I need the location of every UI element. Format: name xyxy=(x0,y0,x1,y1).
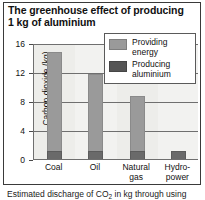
chart-title: The greenhouse effect of producing 1 kg … xyxy=(8,5,188,28)
x-axis-tick-label-line: Oil xyxy=(90,162,100,172)
bar-coal xyxy=(47,52,62,159)
bar-segment-producing-aluminium xyxy=(130,151,145,159)
x-axis-tick-label: Hydro-power xyxy=(154,163,200,182)
y-axis-tick-mark xyxy=(29,102,33,103)
x-axis-tick-label-line: Natural xyxy=(122,162,149,172)
y-axis-tick-mark xyxy=(29,73,33,74)
x-axis-tick-label: Oil xyxy=(72,163,118,173)
x-axis-tick-label-line: Hydro- xyxy=(165,162,191,172)
y-axis-tick-mark xyxy=(29,131,33,132)
legend-label-providing-energy: Providing energy xyxy=(132,38,191,57)
bar-segment-providing-energy xyxy=(47,52,62,151)
x-axis-tick-label-line: gas xyxy=(129,172,143,182)
legend-item-providing-energy: Providing energy xyxy=(109,38,191,57)
y-axis-tick-label: 0 xyxy=(9,156,25,165)
y-axis-tick-label: 4 xyxy=(9,127,25,136)
producing-aluminium-swatch-icon xyxy=(109,61,127,72)
legend-label-producing-aluminium: Producing aluminium xyxy=(132,60,191,79)
y-axis-tick-label: 8 xyxy=(9,98,25,107)
x-axis-tick-label-line: power xyxy=(166,172,189,182)
bar-hydro-power xyxy=(171,151,186,159)
x-axis-tick-label: Coal xyxy=(31,163,77,173)
bar-segment-providing-energy xyxy=(130,96,145,151)
y-axis-tick-mark xyxy=(29,160,33,161)
y-axis-tick-label: 16 xyxy=(9,40,25,49)
bar-natural-gas xyxy=(130,96,145,159)
bar-segment-producing-aluminium xyxy=(171,151,186,159)
y-axis-tick-label: 12 xyxy=(9,69,25,78)
caption-subscript: 2 xyxy=(109,193,113,200)
providing-energy-swatch-icon xyxy=(109,39,127,50)
bar-segment-providing-energy xyxy=(88,74,103,151)
x-axis-tick-label-line: Coal xyxy=(45,162,62,172)
bar-segment-producing-aluminium xyxy=(47,151,62,159)
y-axis-tick-mark xyxy=(29,44,33,45)
caption-post: in kg through using xyxy=(112,189,186,199)
bar-oil xyxy=(88,74,103,159)
bar-segment-producing-aluminium xyxy=(88,151,103,159)
chart-legend: Providing energy Producing aluminium xyxy=(104,33,196,84)
x-axis-tick-label: Naturalgas xyxy=(113,163,159,182)
chart-caption: Estimated discharge of CO2 in kg through… xyxy=(7,189,203,200)
caption-pre: Estimated discharge of CO xyxy=(7,189,109,199)
chart-figure: The greenhouse effect of producing 1 kg … xyxy=(0,0,205,200)
legend-item-producing-aluminium: Producing aluminium xyxy=(109,60,191,79)
